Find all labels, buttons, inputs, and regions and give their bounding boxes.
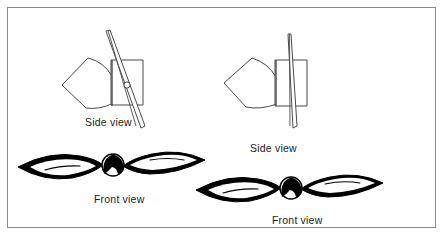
fine-front-view	[196, 175, 383, 202]
label-front-view-left: Front view	[94, 194, 144, 205]
assembly-fine-pitch	[196, 34, 383, 202]
coarse-side-view	[62, 30, 145, 128]
assembly-coarse-pitch	[18, 30, 205, 179]
label-side-view-right: Side view	[250, 143, 297, 154]
spinner-cone-icon	[62, 58, 116, 108]
hub-bolt-icon	[124, 82, 130, 88]
label-front-view-right: Front view	[272, 215, 322, 226]
figure-root: Side view Front view Side view Front vie…	[0, 0, 446, 245]
coarse-front-view	[18, 152, 205, 179]
propeller-diagram-canvas	[0, 0, 446, 245]
label-side-view-left: Side view	[85, 117, 132, 128]
propeller-blade-inner-edge	[290, 34, 291, 126]
spinner-cone-icon	[224, 58, 279, 108]
fine-side-view	[224, 34, 307, 128]
